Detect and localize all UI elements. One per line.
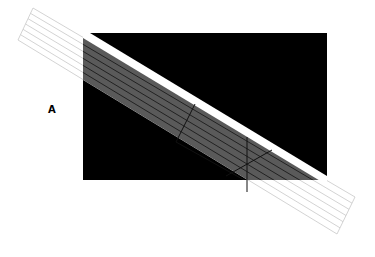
label-a: A: [48, 104, 56, 115]
diagram-canvas: A: [0, 0, 375, 257]
